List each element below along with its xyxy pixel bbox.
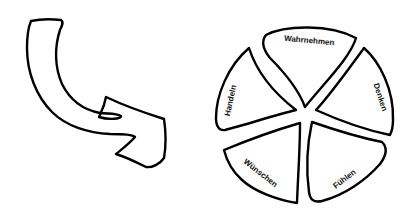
- segment-wuenschen: Wünschen: [224, 123, 300, 203]
- curved-arrow-icon: [27, 19, 166, 167]
- segment-fuehlen: Fühlen: [307, 122, 385, 202]
- diagram-canvas: Wahrnehmen Denken Fühlen Wünschen Handel…: [0, 0, 418, 218]
